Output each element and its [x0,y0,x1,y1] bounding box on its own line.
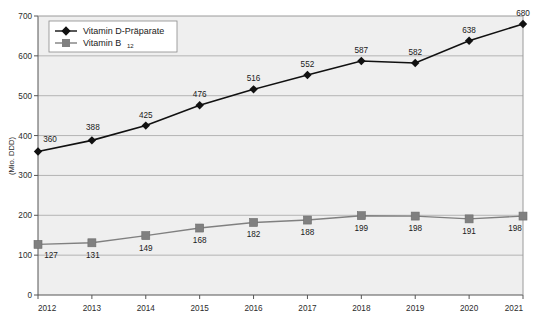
data-point-label: 425 [139,111,153,120]
x-axis-tick-label: 2012 [38,304,57,313]
data-point-label: 149 [139,244,153,253]
data-point-label: 476 [193,90,207,99]
data-point-label: 191 [462,227,476,236]
y-axis-tick-label: 700 [18,12,32,21]
y-axis-tick-label: 200 [18,211,32,220]
data-point-marker[interactable] [303,216,311,224]
x-axis-tick-label: 2015 [191,304,210,313]
y-axis-tick-label: 500 [18,92,32,101]
data-point-label: 198 [508,224,522,233]
data-point-label: 182 [247,230,261,239]
data-point-label: 127 [44,251,58,260]
data-point-marker[interactable] [411,212,419,220]
data-point-marker[interactable] [519,212,527,220]
y-axis-tick-label: 100 [18,251,32,260]
data-point-marker[interactable] [357,212,365,220]
data-point-marker[interactable] [88,239,96,247]
x-axis-tick-label: 2018 [352,304,371,313]
chart-canvas: 0100200300400500600700 20122013201420152… [0,0,542,327]
x-axis-tick-label: 2016 [244,304,263,313]
y-axis: 0100200300400500600700 [18,12,38,300]
data-point-label: 199 [354,224,368,233]
y-axis-tick-label: 400 [18,132,32,141]
x-axis-tick-label: 2021 [505,304,524,313]
y-axis-tick-label: 300 [18,171,32,180]
data-point-label: 680 [516,9,530,18]
data-point-label: 198 [408,224,422,233]
x-axis-tick-label: 2020 [460,304,479,313]
y-axis-tick-label: 0 [27,291,32,300]
data-point-label: 360 [43,135,57,144]
square-marker-icon [62,39,70,47]
legend-label-vitamin-d: Vitamin D-Präparate [83,26,164,36]
data-point-label: 168 [193,236,207,245]
data-point-label: 638 [462,26,476,35]
x-axis-tick-label: 2014 [137,304,156,313]
data-point-marker[interactable] [250,218,258,226]
legend-label-vitamin-b12-subscript: 12 [127,43,134,49]
data-point-marker[interactable] [142,232,150,240]
data-point-label: 388 [86,123,100,132]
data-point-marker[interactable] [34,240,42,248]
chart-legend: Vitamin D-Präparate Vitamin B 12 [49,21,177,52]
data-point-label: 188 [301,228,315,237]
plot-area-background [38,16,523,295]
x-axis-tick-label: 2017 [298,304,317,313]
data-point-marker[interactable] [465,215,473,223]
data-point-label: 131 [86,251,100,260]
y-axis-title: (Mio. DDD) [7,137,16,175]
y-axis-tick-label: 600 [18,52,32,61]
data-point-label: 587 [354,46,368,55]
data-point-label: 582 [408,48,422,57]
line-chart: 0100200300400500600700 20122013201420152… [0,0,542,327]
x-axis-tick-label: 2019 [406,304,425,313]
legend-label-vitamin-b12: Vitamin B [83,38,121,48]
x-axis: 2012201320142015201620172018201920202021 [38,295,523,313]
data-point-marker[interactable] [196,224,204,232]
data-point-label: 516 [247,74,261,83]
x-axis-tick-label: 2013 [83,304,102,313]
data-point-label: 552 [301,60,315,69]
